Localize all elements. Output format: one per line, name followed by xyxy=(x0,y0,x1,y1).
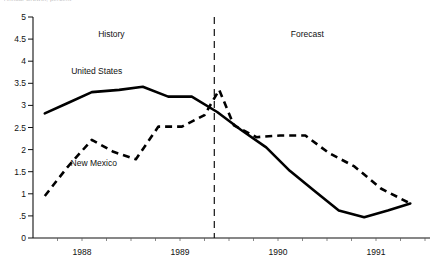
x-tick-group: 1988198919901991 xyxy=(58,238,426,257)
y-axis: 0.511.522.533.544.55 xyxy=(14,12,33,243)
y-tick-group: 0.511.522.533.544.55 xyxy=(14,12,33,243)
x-tick-label: 1988 xyxy=(73,247,92,257)
series-line-new-mexico xyxy=(45,90,411,204)
y-tick-label: 3 xyxy=(21,100,26,110)
y-tick-label: 2 xyxy=(21,145,26,155)
annotation-group: HistoryForecast xyxy=(98,29,324,39)
line-chart-canvas: 0.511.522.533.544.55 1988198919901991 Hi… xyxy=(0,0,433,265)
annotation-forecast: Forecast xyxy=(291,29,325,39)
y-tick-label: 1.5 xyxy=(14,167,26,177)
x-tick-label: 1991 xyxy=(367,247,386,257)
y-tick-label: 4 xyxy=(21,56,26,66)
y-tick-label: 0 xyxy=(21,233,26,243)
y-tick-label: 5 xyxy=(21,12,26,22)
x-tick-label: 1990 xyxy=(269,247,288,257)
chart-root: Annual Growth, percent 0.511.522.533.544… xyxy=(0,0,433,265)
y-tick-label: 1 xyxy=(21,189,26,199)
x-axis: 1988198919901991 xyxy=(33,238,430,257)
series-group xyxy=(45,87,411,217)
y-tick-label: 4.5 xyxy=(14,34,26,44)
series-line-united-states xyxy=(45,87,411,217)
annotation-history: History xyxy=(98,29,125,39)
series-label-new-mexico: New Mexico xyxy=(71,158,118,168)
x-tick-label: 1989 xyxy=(171,247,190,257)
series-label-united-states: United States xyxy=(71,66,122,76)
y-tick-label: .5 xyxy=(19,211,26,221)
y-tick-label: 3.5 xyxy=(14,78,26,88)
y-tick-label: 2.5 xyxy=(14,123,26,133)
